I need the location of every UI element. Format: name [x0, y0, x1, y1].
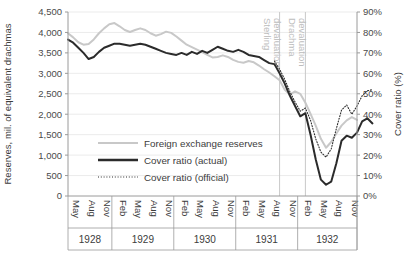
x-axis-month-label: May	[257, 200, 268, 218]
left-axis-tick-label: 4,500	[38, 6, 62, 17]
x-axis-month-label: Aug	[149, 200, 160, 217]
x-axis-month-label: May	[195, 200, 206, 218]
x-axis-year-label: 1931	[256, 234, 279, 245]
x-axis-year-label: 1928	[79, 234, 102, 245]
left-axis-tick-label: 0	[57, 190, 62, 201]
right-axis-tick-label: 90%	[363, 6, 383, 17]
legend-label-2: Cover ratio (actual)	[144, 155, 227, 166]
left-axis-tick-label: 3,000	[38, 68, 62, 79]
left-axis-tick-label: 500	[46, 170, 62, 181]
legend-label-3: Cover ratio (official)	[144, 172, 229, 183]
reserves-cover-ratio-chart: SterlingdevaluationDrachmadevaluation050…	[0, 0, 412, 259]
x-axis-month-label: Feb	[303, 200, 314, 216]
y2-axis-title: Cover ratio (%)	[392, 72, 403, 136]
right-axis-tick-label: 50%	[363, 88, 383, 99]
legend-label-1: Foreign exchange reserves	[144, 138, 263, 149]
left-axis-tick-label: 3,500	[38, 47, 62, 58]
x-axis-month-label: Feb	[241, 200, 252, 216]
x-axis-month-label: Feb	[118, 200, 129, 216]
x-axis-month-label: Aug	[87, 200, 98, 217]
left-axis-tick-label: 2,500	[38, 88, 62, 99]
x-axis-month-label: Aug	[211, 200, 222, 217]
x-axis-month-label: May	[319, 200, 330, 218]
left-axis-tick-label: 1,500	[38, 129, 62, 140]
right-axis-tick-label: 80%	[363, 27, 383, 38]
right-axis-tick-label: 30%	[363, 129, 383, 140]
x-axis-month-label: Aug	[334, 200, 345, 217]
annotation-label: devaluation	[272, 18, 283, 67]
plot-area	[68, 12, 357, 196]
left-axis-tick-label: 4,000	[38, 27, 62, 38]
x-axis-year-label: 1930	[194, 234, 217, 245]
chart-container: SterlingdevaluationDrachmadevaluation050…	[0, 0, 412, 259]
annotation-label: Sterling	[262, 18, 273, 50]
x-axis-month-label: Nov	[350, 200, 361, 217]
left-axis-tick-label: 1,000	[38, 150, 62, 161]
left-axis-tick-label: 2,000	[38, 109, 62, 120]
x-axis-month-label: Aug	[272, 200, 283, 217]
right-axis-tick-label: 10%	[363, 170, 383, 181]
annotation-label: Drachma	[287, 18, 298, 57]
right-axis-tick-label: 40%	[363, 109, 383, 120]
annotation-label: devaluation	[297, 18, 308, 67]
x-axis-month-label: May	[71, 200, 82, 218]
x-axis-year-label: 1932	[316, 234, 339, 245]
x-axis-year-label: 1929	[132, 234, 155, 245]
right-axis-tick-label: 20%	[363, 150, 383, 161]
right-axis-tick-label: 0%	[363, 190, 377, 201]
y-axis-title: Reserves, mil. of equivalent drachmas	[2, 23, 13, 184]
x-axis-month-label: Feb	[180, 200, 191, 216]
right-axis-tick-label: 70%	[363, 47, 383, 58]
right-axis-tick-label: 60%	[363, 68, 383, 79]
x-axis-month-label: May	[133, 200, 144, 218]
